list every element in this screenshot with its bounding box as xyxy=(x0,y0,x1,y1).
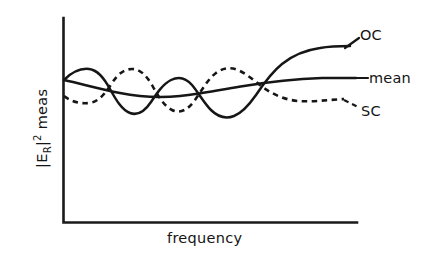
leader-line-dashed-sc xyxy=(344,100,360,108)
y-axis-label-subscript: R xyxy=(42,146,53,153)
chart-svg: OC mean SC frequency |ER|2 meas xyxy=(0,0,426,254)
y-axis-label-post: meas xyxy=(34,89,50,135)
x-axis-label-group: frequency xyxy=(167,230,243,246)
leader-line-solid-oc xyxy=(345,38,359,48)
legend-leaders xyxy=(344,38,368,108)
y-axis-label: |ER|2 meas xyxy=(32,89,53,168)
series-label-mean: mean xyxy=(369,70,411,86)
x-axis-label: frequency xyxy=(167,230,243,246)
series-labels: OC mean SC xyxy=(360,27,411,119)
y-axis-label-pre: |E xyxy=(34,153,51,168)
y-axis-label-superscript: 2 xyxy=(32,134,43,141)
series-label-oc: OC xyxy=(360,27,382,43)
series-label-sc: SC xyxy=(361,103,381,119)
chart-figure: OC mean SC frequency |ER|2 meas xyxy=(0,0,426,254)
chart-plot-area xyxy=(64,46,356,117)
y-axis-label-group: |ER|2 meas xyxy=(32,89,53,168)
